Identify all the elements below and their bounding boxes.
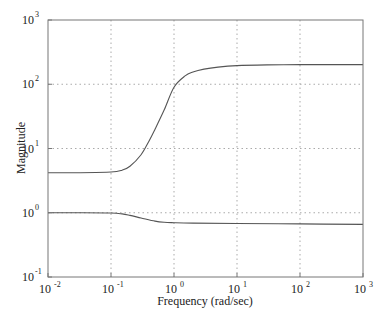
y-tick-label: 10 <box>22 13 34 27</box>
bode-magnitude-chart: 10-210-1100101102103 10-1100101102103 Fr… <box>0 0 383 321</box>
x-tick-exponent: 2 <box>306 280 310 289</box>
x-axis-ticks: 10-210-1100101102103 <box>39 273 373 296</box>
series-line-upper <box>48 65 363 173</box>
grid-lines <box>48 20 363 277</box>
y-tick-exponent: -1 <box>35 267 42 276</box>
y-tick-label: 10 <box>22 77 34 91</box>
y-tick-exponent: 1 <box>35 139 39 148</box>
data-series <box>48 65 363 225</box>
x-tick-label: 10 <box>291 282 303 296</box>
x-tick-label: 10 <box>102 282 114 296</box>
x-axis-title: Frequency (rad/sec) <box>157 294 253 308</box>
y-tick-label: 10 <box>22 206 34 220</box>
y-tick-exponent: 0 <box>35 203 39 212</box>
x-tick-exponent: 3 <box>369 280 373 289</box>
x-tick-exponent: -2 <box>54 280 61 289</box>
y-tick-exponent: 2 <box>35 74 39 83</box>
y-tick-exponent: 3 <box>35 10 39 19</box>
x-tick-exponent: 0 <box>180 280 184 289</box>
series-line-lower <box>48 213 363 225</box>
x-tick-exponent: -1 <box>117 280 124 289</box>
y-axis-title: Magnitude <box>14 122 28 174</box>
x-tick-label: 10 <box>354 282 366 296</box>
x-tick-exponent: 1 <box>243 280 247 289</box>
y-tick-label: 10 <box>22 270 34 284</box>
x-tick-label: 10 <box>39 282 51 296</box>
